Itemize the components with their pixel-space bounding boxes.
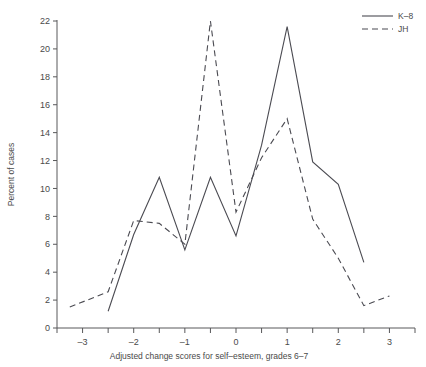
series-line-jh <box>70 21 390 307</box>
x-tick-label: –2 <box>129 337 139 347</box>
legend-label-jh: JH <box>398 24 408 34</box>
x-axis-title: Adjusted change scores for self–esteem, … <box>110 351 309 361</box>
line-chart: 0246810121416182022 –3–2–10123 K–8JH Adj… <box>0 0 426 367</box>
chart-container: 0246810121416182022 –3–2–10123 K–8JH Adj… <box>0 0 426 367</box>
x-tick-label: –1 <box>180 337 190 347</box>
data-series-group <box>70 21 390 311</box>
x-tick-label: 1 <box>285 337 290 347</box>
y-tick-label: 2 <box>45 295 50 305</box>
x-tick-label: 0 <box>233 337 238 347</box>
series-line-k-8 <box>108 27 364 312</box>
chart-legend: K–8JH <box>362 11 413 34</box>
x-axis: –3–2–10123 <box>57 328 415 347</box>
y-axis: 0246810121416182022 <box>40 16 57 333</box>
legend-label-k-8: K–8 <box>398 11 413 21</box>
y-tick-label: 12 <box>40 156 50 166</box>
y-tick-label: 10 <box>40 184 50 194</box>
y-tick-label: 8 <box>45 212 50 222</box>
x-tick-label: 2 <box>336 337 341 347</box>
y-tick-label: 14 <box>40 128 50 138</box>
y-tick-label: 4 <box>45 267 50 277</box>
y-tick-label: 22 <box>40 16 50 26</box>
y-axis-title: Percent of cases <box>6 143 16 206</box>
y-tick-label: 20 <box>40 44 50 54</box>
x-tick-label: 3 <box>387 337 392 347</box>
x-tick-label: –3 <box>78 337 88 347</box>
y-tick-label: 16 <box>40 100 50 110</box>
y-tick-label: 6 <box>45 239 50 249</box>
y-tick-label: 18 <box>40 72 50 82</box>
y-tick-label: 0 <box>45 323 50 333</box>
